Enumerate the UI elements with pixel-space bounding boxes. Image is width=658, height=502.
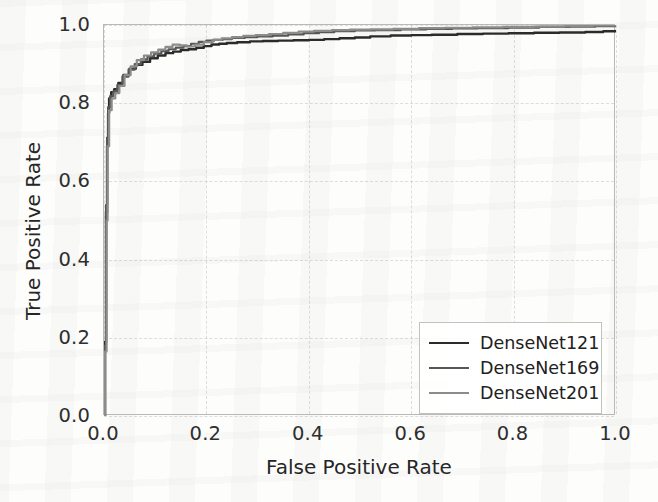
x-tick-label: 0.2 [190, 422, 222, 445]
x-tick-label: 1.0 [599, 422, 631, 445]
y-tick-label: 0.0 [40, 404, 90, 427]
y-tick-label: 0.8 [40, 91, 90, 114]
y-tick-label: 0.2 [40, 325, 90, 348]
x-tick-label: 0.0 [87, 422, 119, 445]
x-tick-label: 0.8 [497, 422, 529, 445]
legend-label: DenseNet121 [480, 333, 599, 353]
legend-line-swatch [429, 342, 469, 344]
x-axis-label: False Positive Rate [103, 455, 615, 479]
y-tick-label: 0.4 [40, 247, 90, 270]
legend-line-swatch [429, 367, 469, 369]
gridline-horizontal [104, 416, 614, 417]
x-tick-label: 0.6 [394, 422, 426, 445]
legend-label: DenseNet169 [480, 358, 599, 378]
legend-item[interactable]: DenseNet169 [429, 355, 592, 380]
gridline-vertical [616, 25, 617, 414]
y-axis-label: True Positive Rate [21, 106, 45, 356]
legend[interactable]: DenseNet121DenseNet169DenseNet201 [419, 322, 602, 414]
y-tick-label: 0.6 [40, 169, 90, 192]
legend-item[interactable]: DenseNet201 [429, 380, 592, 405]
legend-item[interactable]: DenseNet121 [429, 330, 592, 355]
y-tick-label: 1.0 [40, 13, 90, 36]
roc-curve-figure: 0.00.20.40.60.81.0 0.00.20.40.60.81.0 Fa… [0, 0, 658, 502]
legend-label: DenseNet201 [480, 383, 599, 403]
x-tick-label: 0.4 [292, 422, 324, 445]
legend-line-swatch [429, 392, 469, 394]
